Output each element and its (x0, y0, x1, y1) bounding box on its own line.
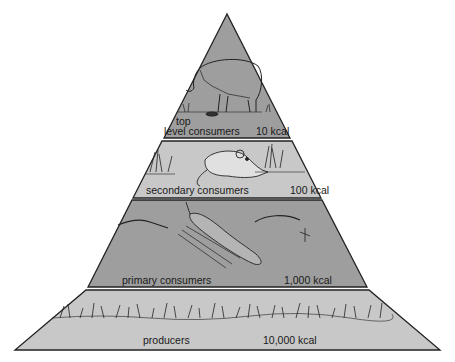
tier-energy-producers: 10,000 kcal (263, 335, 317, 346)
tier-energy-primary: 1,000 kcal (284, 275, 332, 286)
tier-label-secondary: secondary consumers (146, 185, 249, 196)
tier-label-primary: primary consumers (122, 275, 211, 286)
tier-producers (15, 290, 440, 350)
tier-energy-top: 10 kcal (256, 126, 289, 137)
tier-label-producers: producers (143, 335, 190, 346)
tier-label-top-line2: level consumers (164, 126, 240, 137)
energy-pyramid (0, 0, 455, 362)
tier-energy-secondary: 100 kcal (290, 185, 329, 196)
